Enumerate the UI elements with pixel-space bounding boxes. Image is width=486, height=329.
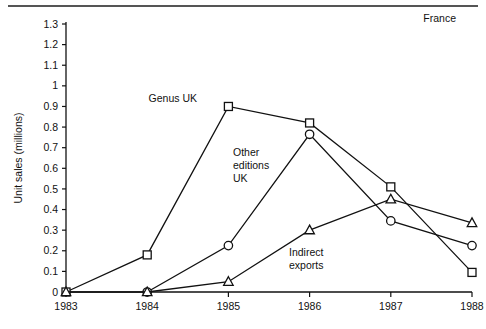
y-tick-label: 0 [52, 286, 58, 298]
series-genus-uk [62, 102, 476, 296]
y-tick-label: 0.8 [43, 121, 58, 133]
series-label-line: exports [289, 259, 323, 271]
chart-corner-annotation: France [423, 12, 456, 24]
series-other-editions-uk [143, 130, 476, 296]
y-tick-label: 0.1 [43, 265, 58, 277]
chart-series-layer [61, 102, 477, 296]
y-tick-label: 0.9 [43, 100, 58, 112]
series-label-line: Genus UK [149, 92, 197, 104]
x-tick-label: 1987 [379, 300, 403, 312]
chart-canvas: 00.10.20.30.40.50.60.70.80.911.11.21.3 1… [0, 0, 486, 329]
series-label-line: editions [233, 159, 269, 171]
x-tick-label: 1986 [298, 300, 322, 312]
line-chart: 00.10.20.30.40.50.60.70.80.911.11.21.3 1… [0, 0, 486, 329]
data-point-square [143, 251, 151, 259]
data-point-circle [305, 130, 313, 138]
series-indirect-exports [61, 194, 477, 295]
y-axis-title: Unit sales (millions) [12, 112, 24, 203]
x-tick-label: 1988 [460, 300, 484, 312]
y-tick-label: 0.2 [43, 244, 58, 256]
y-tick-label: 0.3 [43, 224, 58, 236]
chart-axes [66, 22, 472, 292]
data-point-circle [468, 241, 476, 249]
y-tick-label: 0.5 [43, 183, 58, 195]
series-label-line: UK [233, 172, 248, 184]
data-point-square [387, 183, 395, 191]
y-tick-label: 0.7 [43, 141, 58, 153]
x-axis-ticks: 198319841985198619871988 [54, 292, 484, 312]
x-tick-label: 1985 [217, 300, 241, 312]
data-point-square [224, 102, 232, 110]
x-tick-label: 1983 [54, 300, 78, 312]
y-tick-label: 1.2 [43, 38, 58, 50]
series-label-line: Other [233, 146, 260, 158]
series-line [66, 106, 472, 292]
data-point-square [468, 268, 476, 276]
y-tick-label: 0.6 [43, 162, 58, 174]
series-label-indirect-exports: Indirectexports [289, 246, 324, 271]
y-tick-label: 1.3 [43, 18, 58, 30]
x-tick-label: 1984 [136, 300, 160, 312]
y-axis-ticks: 00.10.20.30.40.50.60.70.80.911.11.21.3 [43, 18, 66, 298]
series-inline-labels: Genus UKOthereditionsUKIndirectexports [149, 92, 324, 271]
series-line [66, 199, 472, 292]
series-label-genus-uk: Genus UK [149, 92, 197, 104]
data-point-triangle [386, 194, 396, 203]
y-tick-label: 1 [52, 79, 58, 91]
data-point-square [306, 119, 314, 127]
series-label-line: Indirect [289, 246, 324, 258]
series-label-other-editions-uk: OthereditionsUK [233, 146, 269, 184]
data-point-circle [224, 241, 232, 249]
y-tick-label: 1.1 [43, 59, 58, 71]
data-point-circle [387, 217, 395, 225]
data-point-triangle [224, 277, 234, 286]
y-tick-label: 0.4 [43, 203, 58, 215]
